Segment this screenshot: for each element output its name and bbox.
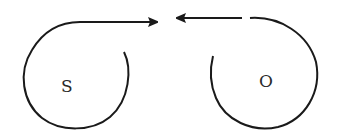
spiral-arrow-s xyxy=(24,22,154,128)
diagram-canvas: S O xyxy=(0,0,340,134)
node-label-o: O xyxy=(259,71,273,91)
spiral-o: O xyxy=(180,18,317,129)
node-label-s: S xyxy=(61,76,73,96)
spiral-s: S xyxy=(24,22,154,128)
